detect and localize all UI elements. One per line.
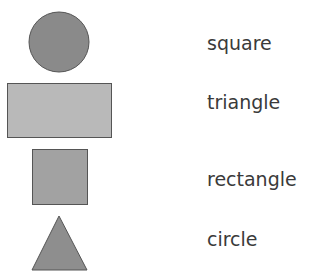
triangle-shape: [32, 216, 87, 270]
rectangle-shape: [8, 84, 112, 138]
label-triangle: triangle: [207, 93, 280, 112]
shapes-column: [0, 0, 130, 272]
label-rectangle: rectangle: [207, 170, 297, 189]
label-square: square: [207, 34, 272, 53]
label-circle: circle: [207, 230, 258, 249]
square-shape: [33, 150, 88, 205]
circle-shape: [29, 12, 89, 72]
